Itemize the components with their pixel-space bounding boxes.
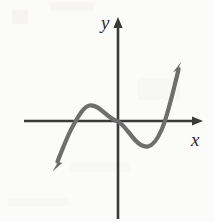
x-axis-label: x [191,130,199,149]
curve-end-arrowhead-icon [173,62,181,74]
cubic-graph-figure: y x [0,0,214,222]
graph-canvas [0,0,214,222]
x-axis-arrowhead-icon [192,116,203,125]
y-axis-label: y [101,13,109,32]
y-axis-arrowhead-icon [113,17,122,28]
